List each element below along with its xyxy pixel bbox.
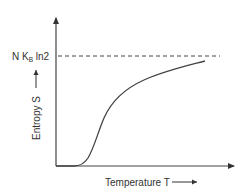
y-axis-label: Entropy S	[31, 96, 42, 140]
x-axis-label: Temperature T	[105, 177, 170, 188]
asymptote-label: N KB ln2	[12, 51, 50, 63]
entropy-chart: N KB ln2 Entropy S Temperature T	[0, 0, 247, 192]
entropy-curve	[56, 61, 205, 166]
